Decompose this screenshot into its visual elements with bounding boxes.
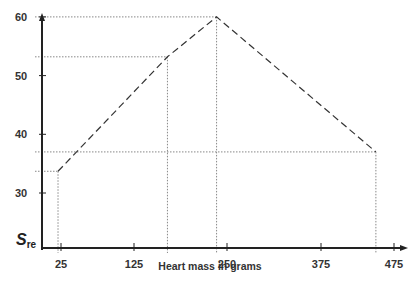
y-tick-label: 60 (15, 11, 27, 23)
y-tick-label: 50 (15, 70, 27, 82)
x-axis-title: Heart mass in grams (158, 260, 261, 272)
x-tick-label: 25 (55, 258, 67, 270)
y-tick-label: 40 (15, 128, 27, 140)
data-line (58, 17, 376, 171)
x-axis-arrow-icon (400, 245, 408, 251)
y-tick-label: 30 (15, 187, 27, 199)
x-tick-label: 125 (125, 258, 143, 270)
x-tick-label: 475 (385, 258, 403, 270)
y-axis-title: Sre (16, 231, 37, 250)
drop-lines (35, 17, 376, 253)
chart: 30405060 25125250375475 Heart mass in gr… (0, 0, 418, 299)
x-tick-label: 375 (312, 258, 330, 270)
